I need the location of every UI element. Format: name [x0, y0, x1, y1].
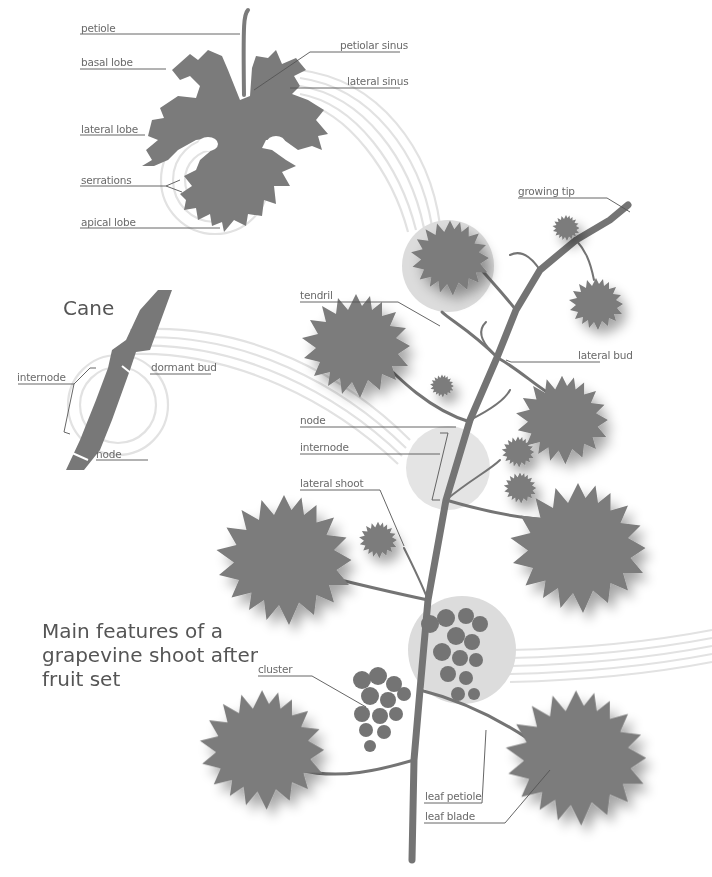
leaf-small-right-b	[504, 472, 536, 503]
label-leaf-petiole: leaf petiole	[425, 790, 481, 802]
label-serrations: serrations	[81, 174, 131, 186]
label-cane-internode: internode	[17, 371, 66, 383]
label-shoot-internode: internode	[300, 441, 349, 453]
connector-arcs-cluster	[510, 630, 712, 682]
label-cane-node: node	[96, 448, 121, 460]
label-dormant-bud: dormant bud	[151, 361, 217, 373]
label-tendril: tendril	[300, 289, 333, 301]
cane-title: Cane	[63, 296, 114, 320]
label-petiolar-sinus: petiolar sinus	[340, 39, 408, 51]
label-apical-lobe: apical lobe	[81, 216, 136, 228]
shoot-leaves	[200, 215, 646, 826]
label-basal-lobe: basal lobe	[81, 56, 133, 68]
leaf-lateral-shoot	[359, 522, 397, 558]
leaf-left-large	[217, 495, 352, 625]
label-lateral-bud: lateral bud	[578, 349, 633, 361]
label-lateral-sinus: lateral sinus	[347, 75, 409, 87]
label-lateral-lobe: lateral lobe	[81, 123, 138, 135]
leaf-lower-right	[506, 690, 646, 825]
label-petiole: petiole	[81, 22, 116, 34]
label-shoot-node: node	[300, 414, 325, 426]
label-lateral-shoot: lateral shoot	[300, 477, 363, 489]
leaf-lower-left	[200, 690, 324, 810]
leaf-right-large	[511, 483, 646, 613]
cluster-lower	[353, 667, 411, 752]
label-leaf-blade: leaf blade	[425, 810, 475, 822]
leaf-upper-right	[569, 278, 623, 330]
label-growing-tip: growing tip	[518, 185, 575, 197]
grapevine-diagram: petiole basal lobe lateral lobe serratio…	[0, 0, 712, 877]
leaf-small-mid	[430, 375, 454, 398]
leaf-detail	[142, 10, 328, 232]
diagram-title: Main features of a grapevine shoot after…	[42, 619, 282, 691]
